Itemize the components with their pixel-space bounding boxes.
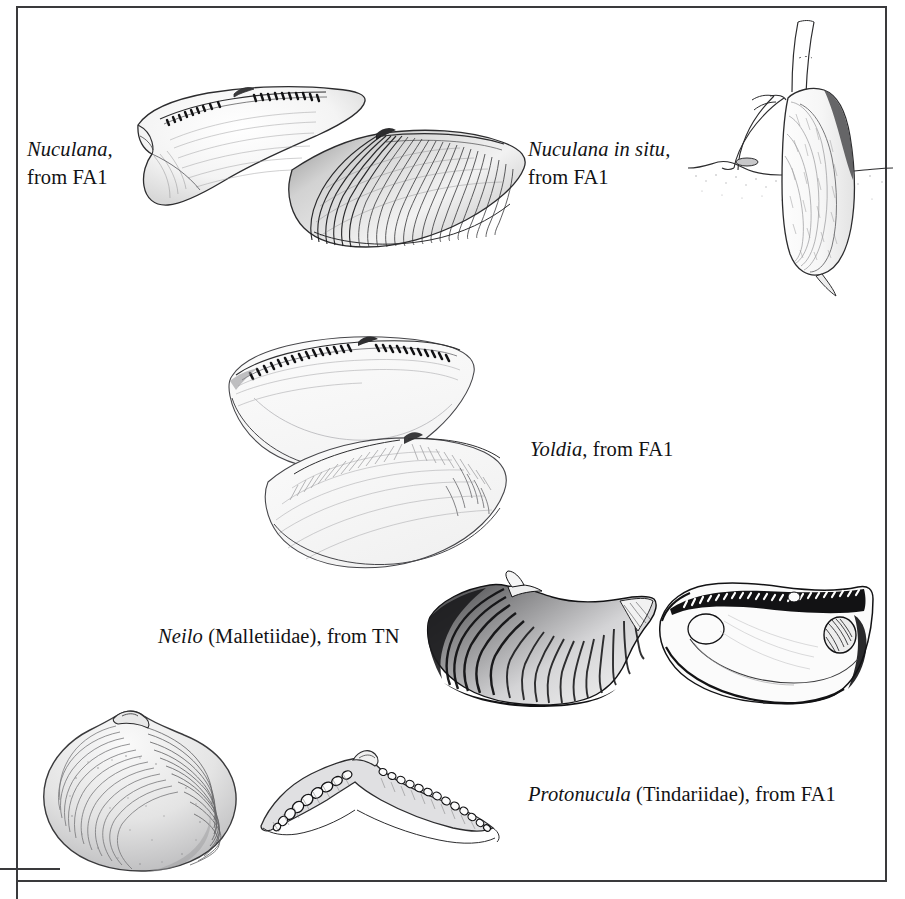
caption-yoldia: Yoldia, from FA1 <box>530 435 673 463</box>
caption-nuculana: Nuculana, from FA1 <box>27 135 113 191</box>
neilo-exterior-shell <box>428 571 656 707</box>
frame-left-rule <box>16 6 18 899</box>
illustration-protonucula-valve <box>38 708 243 873</box>
caption-nuculana-in-situ: Nuculana in situ, from FA1 <box>528 135 670 191</box>
caption-yoldia-source: , from FA1 <box>582 438 673 460</box>
frame-top-rule <box>16 6 887 8</box>
caption-nuculana-source: from FA1 <box>27 163 113 191</box>
illustration-protonucula-hinge <box>253 748 508 853</box>
illustration-neilo-exterior <box>420 565 662 707</box>
caption-yoldia-genus: Yoldia <box>530 438 582 460</box>
caption-nuculana-in-situ-genus: Nuculana in situ, <box>528 138 670 160</box>
illustration-neilo-interior <box>654 565 876 707</box>
caption-protonucula-genus: Protonucula <box>528 783 631 805</box>
figure-panel: Nuculana, from FA1 <box>0 0 905 899</box>
protonucula-hinge-detail <box>261 751 499 844</box>
caption-protonucula-source: (Tindariidae), from FA1 <box>631 783 836 805</box>
caption-neilo-source: (Malletiidae), from TN <box>203 625 400 647</box>
illustration-nuculana-in-situ <box>688 18 893 303</box>
illustration-yoldia-pair <box>208 328 514 576</box>
caption-neilo: Neilo (Malletiidae), from TN <box>158 622 400 650</box>
frame-bottom-rule <box>16 880 887 882</box>
caption-nuculana-in-situ-source: from FA1 <box>528 163 670 191</box>
protonucula-valve-exterior <box>44 711 236 872</box>
neilo-interior-shell <box>660 583 873 704</box>
caption-protonucula: Protonucula (Tindariidae), from FA1 <box>528 780 836 808</box>
siphons <box>792 21 814 95</box>
caption-neilo-genus: Neilo <box>158 625 203 647</box>
illustration-nuculana-pair <box>130 70 530 255</box>
nuculana-shell-in-situ <box>782 88 854 296</box>
caption-nuculana-genus: Nuculana, <box>27 138 113 160</box>
nuculana-right-valve <box>289 128 525 247</box>
